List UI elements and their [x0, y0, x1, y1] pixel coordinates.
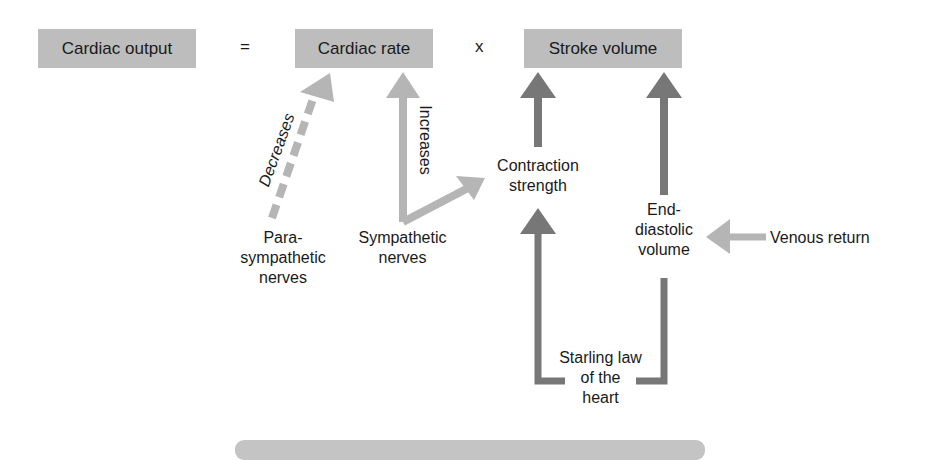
cardiac-output-label: Cardiac output — [62, 39, 173, 59]
bottom-gray-bar — [235, 440, 705, 460]
equals-sign: = — [240, 37, 250, 57]
stroke-volume-label: Stroke volume — [549, 39, 658, 59]
increases-arrow-icon — [386, 72, 485, 222]
increases-label: Increases — [415, 90, 435, 190]
cardiac-rate-box: Cardiac rate — [295, 29, 433, 68]
sympathetic-nerves-label: Sympathetic nerves — [345, 228, 460, 268]
end-diastolic-volume-label: End- diastolic volume — [620, 200, 708, 260]
cardiac-output-box: Cardiac output — [38, 29, 196, 68]
cardiac-rate-label: Cardiac rate — [318, 39, 411, 59]
contraction-to-stroke-arrow-icon — [520, 72, 556, 147]
contraction-strength-label: Contraction strength — [483, 156, 593, 196]
edv-to-stroke-arrow-icon — [646, 72, 682, 195]
parasympathetic-nerves-label: Para- sympathetic nerves — [228, 228, 338, 288]
venous-return-label: Venous return — [770, 228, 910, 248]
venous-return-arrow-icon — [706, 219, 766, 254]
starling-law-label: Starling law of the heart — [543, 348, 658, 408]
stroke-volume-box: Stroke volume — [524, 29, 682, 68]
times-sign: x — [475, 37, 484, 57]
